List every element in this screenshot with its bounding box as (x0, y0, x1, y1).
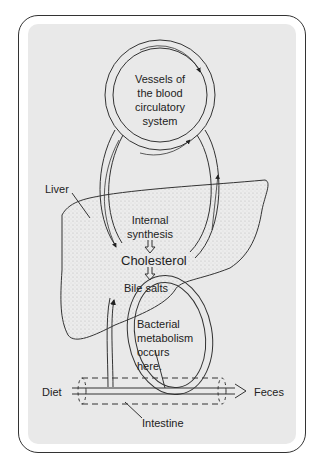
intestine-label: Intestine (142, 416, 184, 430)
bacterial-line-1: Bacterial (137, 317, 193, 331)
synthesis-line: synthesis (120, 227, 180, 241)
vessels-line-2: the blood (120, 86, 200, 100)
feces-label: Feces (254, 385, 284, 399)
vessels-label: Vessels of the blood circulatory system (120, 72, 200, 128)
vessels-line-4: system (120, 114, 200, 128)
bacterial-line-4: here. (137, 359, 193, 373)
bacterial-label: Bacterial metabolism occurs here. (137, 317, 193, 373)
liver-label: Liver (45, 182, 69, 196)
vessels-line-1: Vessels of (120, 72, 200, 86)
bile-salts-label: Bile salts (124, 281, 168, 295)
cholesterol-label: Cholesterol (121, 254, 187, 268)
diet-label: Diet (42, 385, 62, 399)
internal-line: Internal (120, 213, 180, 227)
bacterial-line-2: metabolism (137, 331, 193, 345)
bacterial-line-3: occurs (137, 345, 193, 359)
vessels-line-3: circulatory (120, 100, 200, 114)
internal-synthesis-label: Internal synthesis (120, 213, 180, 241)
